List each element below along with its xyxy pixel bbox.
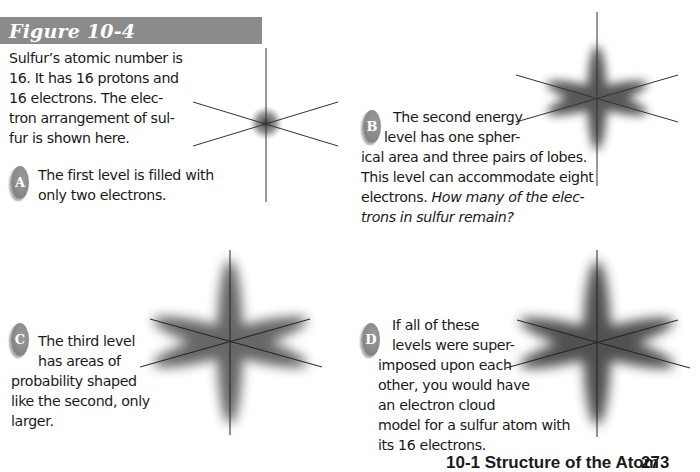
panel-b-text-indent-2: level has one spher- (384, 127, 520, 147)
panel-c-line: has areas of (38, 351, 121, 371)
panel-d-text-indent-1: If all of these (392, 315, 479, 335)
panel-d-line: imposed upon each (378, 355, 570, 375)
panel-d-line: levels were super- (392, 335, 515, 355)
panel-c-line: larger. (11, 411, 150, 431)
third-level-orbital-diagram (140, 250, 322, 435)
panel-b-text: ical area and three pairs of lobes. This… (361, 147, 594, 227)
intro-line: 16 electrons. The elec- (9, 88, 183, 108)
panel-c-text-indent-1: The third level (38, 331, 135, 351)
panel-c-line: The third level (38, 331, 135, 351)
panel-d-line: an electron cloud (378, 395, 570, 415)
intro-line: fur is shown here. (9, 128, 183, 148)
panel-d-line: its 16 electrons. (378, 435, 570, 455)
panel-b-line: The second energy (393, 107, 523, 127)
page-number: 273 (641, 453, 669, 472)
panel-c-text: probability shaped like the second, only… (11, 371, 150, 431)
panel-d-line: If all of these (392, 315, 479, 335)
panel-a-text: The first level is filled with only two … (38, 165, 214, 205)
panel-d-text-indent-2: levels were super- (392, 335, 515, 355)
panel-b-text-indent-1: The second energy (393, 107, 523, 127)
panel-c-line: probability shaped (11, 371, 150, 391)
panel-d-line: other, you would have (378, 375, 570, 395)
panel-b-line: This level can accommodate eight (361, 167, 594, 187)
intro-line: Sulfur’s atomic number is (9, 48, 183, 68)
panel-b-line: ical area and three pairs of lobes. (361, 147, 594, 167)
intro-line: tron arrangement of sul- (9, 108, 183, 128)
badge-a: A (11, 166, 29, 199)
panel-b-line: level has one spher- (384, 127, 520, 147)
intro-line: 16. It has 16 protons and (9, 68, 183, 88)
panel-c-text-indent-2: has areas of (38, 351, 121, 371)
figure-header: Figure 10-4 (0, 17, 262, 44)
panel-d-line: model for a sulfur atom with (378, 415, 570, 435)
section-title-footer: 10-1 Structure of the Atom (446, 453, 659, 472)
panel-a-line: The first level is filled with (38, 165, 214, 185)
badge-d: D (362, 323, 380, 356)
panel-a-line: only two electrons. (38, 185, 214, 205)
figure-title: Figure 10-4 (9, 18, 135, 44)
panel-c-line: like the second, only (11, 391, 150, 411)
badge-c: C (11, 323, 29, 356)
first-level-orbital-diagram (193, 48, 338, 202)
badge-b: B (363, 110, 381, 143)
panel-b-question: How many of the elec- (432, 189, 585, 205)
panel-b-line: electrons. (361, 189, 427, 205)
panel-d-text: imposed upon each other, you would have … (378, 355, 570, 455)
intro-paragraph: Sulfur’s atomic number is 16. It has 16 … (9, 48, 183, 148)
panel-b-question: trons in sulfur remain? (361, 209, 514, 225)
